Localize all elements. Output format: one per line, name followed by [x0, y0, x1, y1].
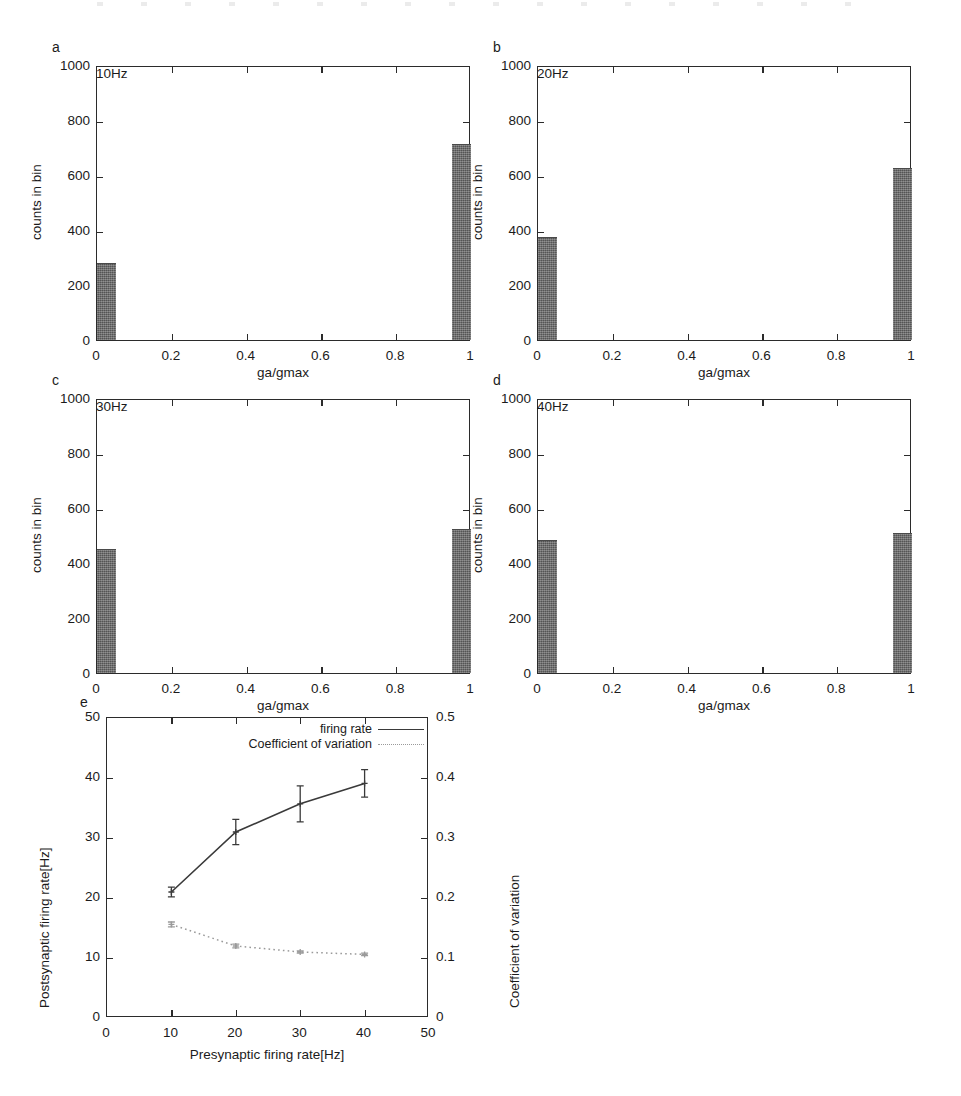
- panel-e: e firing rate Coefficient of variation P…: [0, 690, 530, 1090]
- y-axis-tick: [97, 455, 103, 456]
- y-axis-tick: [904, 455, 910, 456]
- y-axis-right-tick-label: 0.1: [436, 950, 455, 964]
- legend-label-coefficient-of-variation: Coefficient of variation: [249, 737, 372, 752]
- y-axis-right-tick-label: 0.3: [436, 830, 455, 844]
- panel-c-plot-area: [96, 399, 470, 674]
- panel-e-series-layer: [107, 718, 429, 1018]
- y-axis-tick: [538, 455, 544, 456]
- y-axis-tick-label: 200: [479, 279, 531, 293]
- x-axis-tick-label: 0.8: [827, 682, 846, 696]
- series-coefficient-of-variation: [168, 921, 368, 957]
- y-axis-tick: [97, 232, 103, 233]
- y-axis-left-tick-label: 20: [54, 890, 100, 904]
- y-axis-tick-label: 800: [38, 447, 90, 461]
- y-axis-tick-label: 400: [38, 224, 90, 238]
- y-axis-tick: [97, 122, 103, 123]
- legend-item-firing-rate: firing rate: [228, 722, 424, 737]
- y-axis-tick: [463, 455, 469, 456]
- y-axis-tick: [463, 510, 469, 511]
- x-axis-tick-label: 30: [292, 1026, 307, 1040]
- panel-e-letter: e: [80, 695, 88, 709]
- y-axis-tick-label: 600: [38, 502, 90, 516]
- histogram-bar: [452, 144, 471, 340]
- histogram-bar: [538, 237, 557, 340]
- y-axis-tick-label: 1000: [479, 59, 531, 73]
- x-axis-tick-label: 10: [163, 1026, 178, 1040]
- panel-d-plot-area: [537, 399, 911, 674]
- y-axis-tick-label: 600: [479, 502, 531, 516]
- panel-d: d 40Hz counts in bin ga/gmax 00.20.40.60…: [481, 333, 961, 688]
- panel-d-letter: d: [493, 373, 501, 387]
- x-axis-tick-label: 0: [102, 1026, 110, 1040]
- y-axis-tick: [904, 510, 910, 511]
- series-firing-rate: [168, 770, 368, 897]
- x-axis-tick: [762, 667, 763, 673]
- y-axis-tick-label: 600: [479, 169, 531, 183]
- y-axis-tick-label: 800: [38, 114, 90, 128]
- y-axis-tick-label: 1000: [479, 392, 531, 406]
- x-axis-tick: [613, 667, 614, 673]
- panel-a: a 10Hz counts in bin ga/gmax 00.20.40.60…: [0, 0, 480, 355]
- x-axis-tick: [172, 667, 173, 673]
- panel-c-frequency-label: 30Hz: [96, 399, 470, 414]
- data-point-marker: [362, 951, 368, 957]
- x-axis-tick-label: 0.2: [602, 682, 621, 696]
- panel-b-plot-area: [537, 66, 911, 341]
- y-axis-right-tick-label: 0.2: [436, 890, 455, 904]
- data-point-marker: [297, 949, 303, 955]
- y-axis-left-tick-label: 40: [54, 770, 100, 784]
- panel-e-y-axis-right-title: Coefficient of variation: [508, 875, 522, 1008]
- x-axis-tick-label: 20: [227, 1026, 242, 1040]
- legend-swatch-solid-line: [378, 729, 424, 730]
- y-axis-tick: [538, 510, 544, 511]
- y-axis-tick-label: 200: [479, 612, 531, 626]
- y-axis-left-tick-label: 0: [54, 1010, 100, 1024]
- panel-a-plot-area: [96, 66, 470, 341]
- y-axis-tick: [538, 177, 544, 178]
- y-axis-left-tick-label: 30: [54, 830, 100, 844]
- x-axis-tick: [247, 667, 248, 673]
- legend-label-firing-rate: firing rate: [320, 722, 372, 737]
- y-axis-right-tick-label: 0.5: [436, 710, 455, 724]
- y-axis-tick: [904, 122, 910, 123]
- x-axis-tick-label: 40: [356, 1026, 371, 1040]
- figure-root: a 10Hz counts in bin ga/gmax 00.20.40.60…: [0, 0, 961, 1096]
- y-axis-tick-label: 400: [479, 224, 531, 238]
- y-axis-left-tick-label: 10: [54, 950, 100, 964]
- y-axis-tick-label: 800: [479, 114, 531, 128]
- series-line: [171, 924, 364, 954]
- series-line: [171, 783, 364, 892]
- y-axis-tick: [97, 510, 103, 511]
- y-axis-tick-label: 0: [479, 667, 531, 681]
- legend-item-coefficient-of-variation: Coefficient of variation: [228, 737, 424, 752]
- x-axis-tick-label: 1: [907, 682, 915, 696]
- x-axis-tick: [321, 667, 322, 673]
- panel-a-frequency-label: 10Hz: [96, 66, 470, 81]
- y-axis-tick-label: 800: [479, 447, 531, 461]
- histogram-bar: [97, 549, 116, 673]
- panel-c-letter: c: [52, 373, 59, 387]
- y-axis-tick-label: 1000: [38, 392, 90, 406]
- panel-e-plot-area: [106, 717, 428, 1017]
- y-axis-tick-label: 1000: [38, 59, 90, 73]
- x-axis-tick-label: 0.4: [677, 682, 696, 696]
- panel-b: b 20Hz counts in bin ga/gmax 00.20.40.60…: [481, 0, 961, 355]
- x-axis-tick: [396, 667, 397, 673]
- y-axis-tick: [97, 177, 103, 178]
- y-axis-right-tick-label: 0.4: [436, 770, 455, 784]
- y-axis-tick: [538, 122, 544, 123]
- panel-e-x-axis-title: Presynaptic firing rate[Hz]: [190, 1048, 345, 1062]
- x-axis-tick-label: 0.6: [752, 682, 771, 696]
- y-axis-tick-label: 200: [38, 612, 90, 626]
- histogram-bar: [538, 540, 557, 673]
- y-axis-tick: [538, 232, 544, 233]
- panel-b-letter: b: [493, 40, 501, 54]
- histogram-bar: [97, 263, 116, 340]
- panel-b-frequency-label: 20Hz: [537, 66, 911, 81]
- legend-swatch-dotted-line: [378, 744, 424, 745]
- data-point-marker: [362, 780, 368, 786]
- data-point-marker: [297, 801, 303, 807]
- histogram-bar: [452, 529, 471, 673]
- x-axis-tick: [688, 667, 689, 673]
- x-axis-tick: [837, 667, 838, 673]
